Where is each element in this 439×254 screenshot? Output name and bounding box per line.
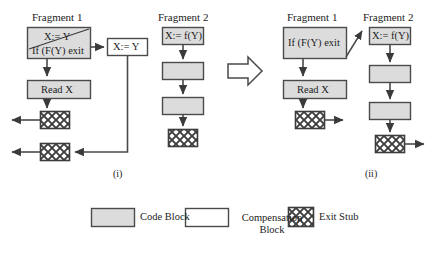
code-block-empty-1[interactable] (163, 63, 204, 80)
panel-ii-fragment-1-title: Fragment 1 (287, 12, 337, 23)
code-block-x-eq-fy-ii-label: X:= f(Y) (372, 31, 409, 42)
exit-stub-ii-fragment2[interactable] (376, 136, 405, 153)
compensation-block-x-eq-y-label: X:= Y (113, 42, 139, 53)
legend-swatch-compensation-block (186, 209, 229, 227)
code-block-if-fy-exit-line2: If (F(Y) exit (32, 46, 84, 57)
code-block-empty-2[interactable] (163, 98, 204, 115)
panel-i-label: (i) (113, 169, 122, 179)
edge-fragment1-to-fragment2-ii (346, 31, 362, 57)
exit-stub-1[interactable] (41, 112, 70, 129)
legend-label-compensation-block: Compensation Block (233, 212, 311, 236)
code-block-read-x-label: Read X (41, 85, 73, 96)
transform-arrow-icon (228, 57, 262, 85)
code-block-x-eq-fy-label: X:= f(Y) (165, 31, 202, 42)
legend-label-exit-stub: Exit Stub (319, 212, 358, 223)
code-block-if-fy-exit-line1: X:= Y (44, 32, 70, 43)
code-block-empty-1-ii[interactable] (370, 66, 411, 83)
legend-label-code-block: Code Block (140, 212, 190, 223)
edge-compensation-to-stub2 (75, 56, 128, 153)
exit-stub-fragment2[interactable] (169, 130, 198, 147)
exit-stub-ii-fragment1[interactable] (296, 112, 325, 129)
panel-ii-label: (ii) (365, 169, 377, 179)
panel-i-fragment-1-title: Fragment 1 (32, 12, 82, 23)
panel-i-fragment-2 (163, 28, 204, 147)
exit-stub-2[interactable] (41, 144, 70, 161)
panel-ii-fragment-2-title: Fragment 2 (363, 12, 413, 23)
panel-i-fragment-2-title: Fragment 2 (158, 12, 208, 23)
code-block-read-x-ii-label: Read X (297, 85, 329, 96)
code-block-empty-2-ii[interactable] (370, 103, 411, 120)
legend-swatch-code-block (92, 209, 135, 227)
code-block-if-fy-exit-ii-label: If (F(Y) exit (288, 38, 340, 49)
panel-ii-fragment-2 (370, 28, 425, 153)
